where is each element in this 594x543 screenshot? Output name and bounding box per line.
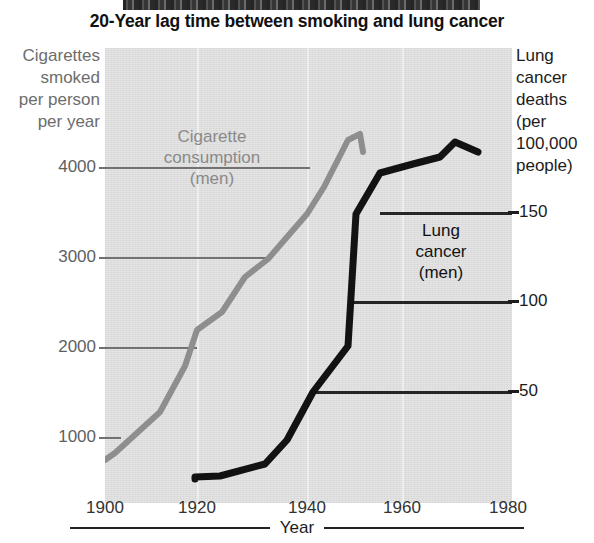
right-tick-label-50: 50 — [519, 381, 538, 401]
x-axis-caption: Year — [0, 516, 594, 540]
right-tickmark-100 — [508, 300, 519, 303]
annotation-lung-cancer: Lung cancer (men) — [393, 220, 489, 283]
right-axis-title-line: people) — [516, 155, 594, 177]
right-tick-label-150: 150 — [519, 202, 547, 222]
x-axis-rule-right — [324, 527, 524, 529]
left-axis-title-line: Cigarettes — [0, 45, 100, 67]
photo-strip-decoration — [123, 0, 480, 10]
chart-title: 20-Year lag time between smoking and lun… — [0, 11, 594, 32]
x-axis-label: Year — [280, 518, 314, 538]
left-tick-label-1000: 1000 — [28, 427, 96, 447]
left-tickmark-1000 — [99, 437, 108, 439]
x-tick-label-1980: 1980 — [478, 498, 538, 518]
right-tickmark-150 — [508, 211, 519, 214]
annotation-line: Cigarette — [137, 126, 287, 147]
series-line-lung-cancer — [195, 142, 478, 479]
x-axis-rule-left — [70, 527, 270, 529]
left-tick-label-4000: 4000 — [28, 157, 96, 177]
right-axis-title-line: (per — [516, 111, 594, 133]
chart-figure: 20-Year lag time between smoking and lun… — [0, 0, 594, 543]
left-tickmark-3000 — [99, 257, 108, 259]
left-axis-title: Cigarettes smoked per person per year — [0, 45, 100, 133]
annotation-cigarette-consumption: Cigarette consumption (men) — [137, 126, 287, 189]
plot-area: Cigarette consumption (men) Lung cancer … — [105, 48, 512, 503]
right-tickmark-50 — [508, 390, 519, 393]
x-tick-label-1920: 1920 — [167, 498, 227, 518]
annotation-line: Lung — [393, 220, 489, 241]
right-axis-title-line: deaths — [516, 89, 594, 111]
right-axis-title-line: Lung — [516, 45, 594, 67]
left-tick-label-2000: 2000 — [28, 337, 96, 357]
left-axis-title-line: smoked — [0, 67, 100, 89]
right-axis-title: Lung cancer deaths (per 100,000 people) — [516, 45, 594, 177]
annotation-line: consumption — [137, 147, 287, 168]
left-axis-title-line: per person — [0, 89, 100, 111]
left-axis-title-line: per year — [0, 111, 100, 133]
right-axis-title-line: 100,000 — [516, 133, 594, 155]
right-axis-title-line: cancer — [516, 67, 594, 89]
annotation-line: (men) — [137, 168, 287, 189]
left-tickmark-4000 — [99, 167, 108, 169]
x-tick-label-1940: 1940 — [277, 498, 337, 518]
left-tickmark-2000 — [99, 347, 108, 349]
x-tick-label-1900: 1900 — [75, 498, 135, 518]
left-tick-label-3000: 3000 — [28, 247, 96, 267]
right-tick-label-100: 100 — [519, 291, 547, 311]
annotation-line: (men) — [393, 262, 489, 283]
annotation-line: cancer — [393, 241, 489, 262]
x-tick-label-1960: 1960 — [372, 498, 432, 518]
